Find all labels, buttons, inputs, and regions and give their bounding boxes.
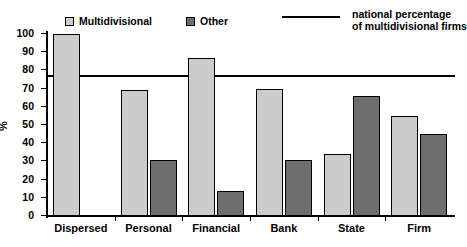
bar-financial-multidivisional [188,58,215,216]
y-axis-tick-label: 60 [8,101,34,111]
y-axis-tick-label: 90 [8,46,34,56]
legend-swatch-other [186,17,195,26]
legend-line-swatch [282,16,340,18]
legend-item-multidivisional: Multidivisional [65,16,152,27]
bar-firm-other [420,134,447,216]
x-axis-label-state: State [318,222,386,235]
legend-item-other: Other [186,16,228,27]
bar-state-multidivisional [324,154,351,216]
bar-personal-multidivisional [121,90,148,216]
bar-personal-other [150,160,177,216]
x-axis-label-financial: Financial [182,222,250,235]
y-axis-tick-label: 80 [8,64,34,74]
y-axis-tick-label: 20 [8,174,34,184]
legend-swatch-multidivisional [65,17,74,26]
legend-label-reference-line-row2: of multidivisional firms [352,21,467,33]
x-axis-tick [115,215,116,221]
bar-state-other [353,96,380,216]
x-axis-tick [385,215,386,221]
x-axis-tick [318,215,319,221]
x-axis-label-dispersed: Dispersed [47,222,115,235]
y-axis-tick-label: 30 [8,155,34,165]
y-axis-tick-label: 0 [8,210,34,220]
x-axis-label-firm: Firm [385,222,453,235]
chart-legend: Multidivisional Other national percentag… [0,6,463,32]
legend-label-reference-line: national percentage of multidivisional f… [352,9,467,32]
plot-area [47,33,453,216]
bar-bank-multidivisional [256,89,283,216]
legend-label-multidivisional: Multidivisional [79,16,152,27]
legend-label-reference-line-row1: national percentage [352,9,467,21]
y-axis-tick-label: 100 [8,28,34,38]
y-axis-tick-label: 10 [8,192,34,202]
x-axis-tick [250,215,251,221]
y-axis-tick-label: 40 [8,137,34,147]
bar-firm-multidivisional [391,116,418,216]
x-axis-label-personal: Personal [115,222,183,235]
bar-dispersed-multidivisional [53,34,80,216]
y-axis-tick-label: 70 [8,83,34,93]
bar-financial-other [217,191,244,216]
x-axis-label-bank: Bank [250,222,318,235]
y-axis-tick-label: 50 [8,119,34,129]
bar-bank-other [285,160,312,216]
legend-label-other: Other [200,16,228,27]
x-axis-tick [182,215,183,221]
legend-item-reference-line [282,16,348,18]
